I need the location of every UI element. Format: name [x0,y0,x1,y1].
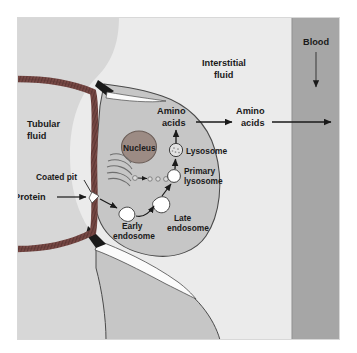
nucleus-label: Nucleus [123,143,156,153]
primary-lysosome-label-line2: lysosome [184,176,223,186]
arrow-primary-to-lysosome [175,159,176,169]
early-endosome-label-line1: Early [122,221,143,231]
primary-lysosome-label-line1: Primary [184,166,216,176]
coated-pit-label: Coated pit [36,172,77,182]
endocytosis-diagram: Tubular fluid Interstitial fluid Blood C… [0,0,357,353]
primary-lysosome [168,170,181,183]
interstitial-fluid-label-line2: fluid [214,70,233,80]
early-endosome-label-line2: endosome [113,231,155,241]
late-endosome-label-line2: endosome [167,223,209,233]
blood-label: Blood [303,37,329,47]
amino-acids-interstitial-label-line1: Amino [236,106,265,116]
interstitial-fluid-label-line1: Interstitial [202,58,246,68]
tubular-fluid-label-line1: Tubular [27,119,60,129]
lysosome [169,143,182,156]
late-endosome-label-line1: Late [174,213,192,223]
lysosome-label: Lysosome [186,146,227,156]
golgi-vesicle-arrow [138,178,147,179]
protein-label: Protein [14,192,46,202]
tubular-fluid-label-line2: fluid [27,131,46,141]
amino-acids-cell-label-line1: Amino [157,106,186,116]
amino-acids-cell-label-line2: acids [162,118,186,128]
amino-acids-interstitial-label-line2: acids [241,118,265,128]
